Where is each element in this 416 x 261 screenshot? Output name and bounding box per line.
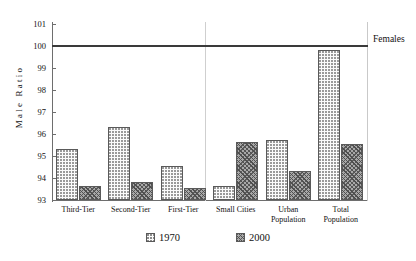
x-axis-category-label-line: Population [301, 215, 381, 225]
y-axis-tick-label: 97 [22, 108, 46, 117]
y-axis-tick-label: 93 [22, 196, 46, 205]
x-axis-category-label: TotalPopulation [301, 205, 381, 225]
bar-1970-small-cities [213, 186, 235, 200]
bars-layer [52, 24, 367, 200]
x-axis-line [52, 200, 368, 201]
bar-2000-first-tier [184, 188, 206, 200]
legend-label-2000: 2000 [249, 232, 270, 243]
legend-label-1970: 1970 [159, 232, 180, 243]
legend-swatch-1970-icon [146, 233, 155, 242]
legend-entry-1970: 1970 [146, 232, 180, 243]
legend-entry-2000: 2000 [236, 232, 270, 243]
y-axis-tick-label: 100 [22, 42, 46, 51]
y-axis-tick-label: 95 [22, 152, 46, 161]
chart-legend: 1970 2000 [0, 232, 416, 243]
bar-1970-second-tier [108, 127, 130, 200]
bar-1970-total-population [318, 50, 340, 200]
male-ratio-bar-chart: Male Ratio 10110099989796959493 Females … [0, 0, 416, 261]
plot-right-edge [367, 22, 368, 201]
y-axis-tick-label: 96 [22, 130, 46, 139]
bar-2000-third-tier [79, 186, 101, 200]
bar-2000-second-tier [131, 182, 153, 200]
x-axis-category-label-line: Total [301, 205, 381, 215]
y-axis-tick-label: 99 [22, 64, 46, 73]
bar-2000-total-population [341, 144, 363, 200]
y-axis-tick-label: 94 [22, 174, 46, 183]
bar-1970-first-tier [161, 166, 183, 200]
bar-1970-third-tier [56, 149, 78, 200]
y-axis-tick-label: 98 [22, 86, 46, 95]
legend-swatch-2000-icon [236, 233, 245, 242]
y-axis-tick-label: 101 [22, 20, 46, 29]
females-reference-label: Females [373, 34, 405, 44]
bar-1970-urban-population [266, 140, 288, 201]
bar-2000-urban-population [289, 171, 311, 200]
bar-2000-small-cities [236, 142, 258, 200]
y-axis-tick-mark [52, 200, 56, 201]
